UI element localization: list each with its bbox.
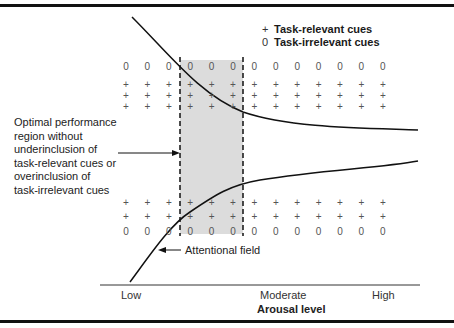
task-relevant-cue: + — [356, 91, 366, 101]
task-irrelevant-cue: 0 — [314, 227, 324, 237]
task-relevant-cue: + — [121, 198, 131, 208]
task-irrelevant-cue: 0 — [378, 227, 388, 237]
plus-symbol-icon: + — [262, 23, 274, 36]
task-relevant-cue: + — [292, 198, 302, 208]
task-irrelevant-cue: 0 — [314, 62, 324, 72]
task-relevant-cue: + — [356, 80, 366, 90]
annotation-line: task-relevant cues or — [14, 157, 129, 171]
task-relevant-cue: + — [142, 102, 152, 112]
task-irrelevant-cue: 0 — [164, 62, 174, 72]
task-relevant-cue: + — [335, 80, 345, 90]
task-relevant-cue: + — [142, 198, 152, 208]
task-relevant-cue: + — [228, 91, 238, 101]
task-irrelevant-cue: 0 — [292, 227, 302, 237]
task-relevant-cue: + — [249, 198, 259, 208]
task-relevant-cue: + — [121, 212, 131, 222]
task-irrelevant-cue: 0 — [207, 62, 217, 72]
task-irrelevant-cue: 0 — [356, 227, 366, 237]
task-relevant-cue: + — [121, 80, 131, 90]
task-relevant-cue: + — [185, 91, 195, 101]
task-relevant-cue: + — [292, 102, 302, 112]
task-relevant-cue: + — [271, 91, 281, 101]
task-relevant-cue: + — [207, 80, 217, 90]
task-irrelevant-cue: 0 — [378, 62, 388, 72]
optimal-region-arrowhead — [172, 150, 180, 156]
task-irrelevant-cue: 0 — [249, 227, 259, 237]
task-relevant-cue: + — [378, 198, 388, 208]
task-irrelevant-cue: 0 — [207, 227, 217, 237]
task-relevant-cue: + — [228, 212, 238, 222]
task-relevant-cue: + — [228, 198, 238, 208]
task-relevant-cue: + — [249, 102, 259, 112]
task-relevant-cue: + — [164, 212, 174, 222]
attentional-field-arrowhead — [158, 247, 166, 253]
annotation-line: overinclusion of — [14, 170, 129, 184]
task-relevant-cue: + — [356, 102, 366, 112]
attentional-field-label: Attentional field — [185, 244, 260, 256]
task-irrelevant-cue: 0 — [142, 62, 152, 72]
legend-label-irrelevant: Task-irrelevant cues — [274, 36, 380, 49]
task-relevant-cue: + — [185, 212, 195, 222]
annotation-line: region without — [14, 130, 129, 144]
task-irrelevant-cue: 0 — [142, 227, 152, 237]
legend-label-relevant: Task-relevant cues — [274, 23, 372, 36]
task-irrelevant-cue: 0 — [228, 62, 238, 72]
task-relevant-cue: + — [356, 198, 366, 208]
task-irrelevant-cue: 0 — [185, 62, 195, 72]
task-relevant-cue: + — [314, 212, 324, 222]
task-irrelevant-cue: 0 — [271, 227, 281, 237]
task-relevant-cue: + — [292, 80, 302, 90]
annotation-line: task-irrelevant cues — [14, 184, 129, 198]
task-relevant-cue: + — [142, 212, 152, 222]
task-irrelevant-cue: 0 — [271, 62, 281, 72]
task-relevant-cue: + — [314, 102, 324, 112]
task-relevant-cue: + — [314, 80, 324, 90]
legend: + Task-relevant cues 0 Task-irrelevant c… — [262, 23, 380, 49]
task-relevant-cue: + — [185, 80, 195, 90]
task-irrelevant-cue: 0 — [121, 227, 131, 237]
task-relevant-cue: + — [271, 102, 281, 112]
task-relevant-cue: + — [335, 102, 345, 112]
task-relevant-cue: + — [164, 91, 174, 101]
task-relevant-cue: + — [271, 198, 281, 208]
task-irrelevant-cue: 0 — [335, 227, 345, 237]
task-relevant-cue: + — [121, 102, 131, 112]
task-relevant-cue: + — [164, 102, 174, 112]
annotation-line: underinclusion of — [14, 143, 129, 157]
legend-item-relevant: + Task-relevant cues — [262, 23, 380, 36]
task-relevant-cue: + — [292, 91, 302, 101]
task-relevant-cue: + — [249, 91, 259, 101]
task-relevant-cue: + — [378, 91, 388, 101]
task-relevant-cue: + — [378, 80, 388, 90]
task-relevant-cue: + — [121, 91, 131, 101]
task-irrelevant-cue: 0 — [292, 62, 302, 72]
zero-symbol-icon: 0 — [262, 36, 274, 49]
task-relevant-cue: + — [378, 102, 388, 112]
task-relevant-cue: + — [185, 198, 195, 208]
task-relevant-cue: + — [207, 212, 217, 222]
task-relevant-cue: + — [228, 80, 238, 90]
optimal-region-annotation: Optimal performance region without under… — [14, 116, 129, 197]
x-tick-moderate: Moderate — [260, 289, 306, 301]
task-relevant-cue: + — [164, 80, 174, 90]
task-relevant-cue: + — [164, 198, 174, 208]
task-relevant-cue: + — [292, 212, 302, 222]
task-relevant-cue: + — [271, 212, 281, 222]
task-relevant-cue: + — [271, 80, 281, 90]
task-relevant-cue: + — [142, 91, 152, 101]
x-axis-title: Arousal level — [257, 303, 325, 315]
task-relevant-cue: + — [207, 102, 217, 112]
task-relevant-cue: + — [314, 198, 324, 208]
task-irrelevant-cue: 0 — [228, 227, 238, 237]
task-relevant-cue: + — [142, 80, 152, 90]
x-tick-high: High — [372, 289, 395, 301]
task-irrelevant-cue: 0 — [335, 62, 345, 72]
task-irrelevant-cue: 0 — [121, 62, 131, 72]
task-irrelevant-cue: 0 — [185, 227, 195, 237]
task-relevant-cue: + — [249, 80, 259, 90]
x-tick-low: Low — [121, 289, 141, 301]
task-relevant-cue: + — [335, 198, 345, 208]
task-relevant-cue: + — [207, 198, 217, 208]
task-relevant-cue: + — [185, 102, 195, 112]
task-irrelevant-cue: 0 — [356, 62, 366, 72]
